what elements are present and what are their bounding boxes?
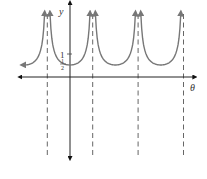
x-axis-label: θ [190, 82, 195, 93]
curve-branch-left-partial [23, 13, 45, 65]
y-tick-label-half-denominator: 2 [61, 65, 64, 71]
curve-branch-1 [95, 13, 135, 65]
y-tick-label-half-numerator: 1 [61, 58, 64, 64]
curve-branch-2 [141, 13, 181, 65]
secant-graph: y θ 1 1 2 [0, 0, 207, 179]
y-axis-label: y [58, 6, 64, 17]
